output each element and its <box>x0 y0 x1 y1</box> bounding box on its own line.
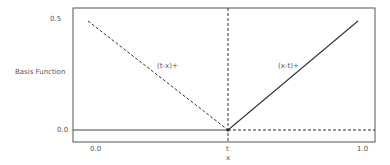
knot-point <box>226 128 229 131</box>
x-tick-left: 0.0 <box>90 145 101 153</box>
x-tick-knot: t <box>226 145 229 153</box>
series-tminusx-line <box>88 21 228 130</box>
annotation-tminusx: (t-x)+ <box>157 62 178 70</box>
y-tick-top: 0.5 <box>50 15 61 23</box>
chart-canvas <box>0 0 390 165</box>
y-tick-bottom: 0.0 <box>57 126 68 134</box>
plot-frame <box>73 8 375 142</box>
y-axis-label: Basis Function <box>15 68 65 76</box>
x-axis-label: x <box>226 154 230 162</box>
annotation-xminust: (x-t)+ <box>278 62 299 70</box>
x-tick-right: 1.0 <box>357 145 368 153</box>
series-xminust-line <box>228 21 358 130</box>
